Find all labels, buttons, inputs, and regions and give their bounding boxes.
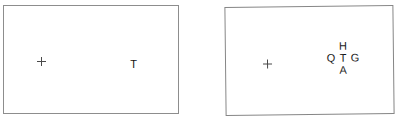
stimulus-figure: T H Q T G A bbox=[0, 0, 402, 121]
flanker-letter-right: G bbox=[350, 52, 360, 63]
flanker-letter-left: Q bbox=[326, 53, 336, 64]
flanker-letter-top: H bbox=[338, 41, 348, 52]
crowded-panel: H Q T G A bbox=[224, 5, 394, 116]
target-letter-crowded: T bbox=[338, 53, 348, 64]
fixation-cross-icon bbox=[37, 57, 46, 66]
fixation-cross-icon bbox=[263, 59, 272, 68]
target-letter-uncrowded: T bbox=[129, 59, 138, 70]
uncrowded-panel: T bbox=[3, 5, 179, 114]
flanker-letter-bottom: A bbox=[338, 65, 348, 76]
crowded-letter-cluster: H Q T G A bbox=[326, 40, 360, 74]
